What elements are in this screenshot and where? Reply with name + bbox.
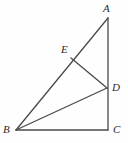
segment-layer bbox=[16, 18, 108, 130]
vertex-label-a: A bbox=[103, 3, 110, 14]
vertex-label-c: C bbox=[113, 124, 120, 135]
segment-ed bbox=[71, 58, 107, 88]
vertex-label-b: B bbox=[3, 124, 10, 135]
vertex-label-e: E bbox=[61, 44, 68, 55]
vertex-label-d: D bbox=[112, 82, 120, 93]
geometry-canvas bbox=[0, 0, 128, 143]
segment-ab bbox=[16, 18, 108, 130]
segment-bd bbox=[16, 88, 107, 130]
geometry-figure: ABCDE bbox=[0, 0, 128, 143]
